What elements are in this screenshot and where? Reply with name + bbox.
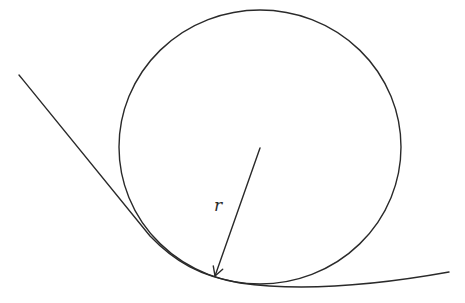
curve [19, 75, 449, 287]
radius-label: r [214, 195, 223, 215]
osculating-circle [119, 10, 401, 284]
osculating-circle-diagram: r [0, 0, 465, 303]
